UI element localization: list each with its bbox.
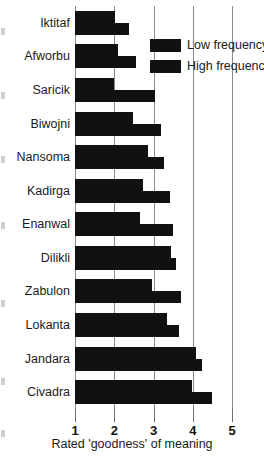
bar-low-frequency (75, 78, 114, 90)
legend-swatch-icon (150, 60, 181, 73)
x-tick-label: 5 (222, 424, 242, 438)
bar-high-frequency (75, 359, 202, 371)
bar-low-frequency (75, 347, 196, 359)
category-label: Enanwal (0, 217, 70, 231)
bar-high-frequency (75, 23, 129, 35)
category-label: Dilikli (0, 251, 70, 265)
category-label: Jandara (0, 352, 70, 366)
bar-low-frequency (75, 44, 118, 56)
axis-tick (154, 409, 155, 422)
bar-group (75, 212, 232, 236)
category-label: Saricik (0, 83, 70, 97)
bar-high-frequency (75, 124, 161, 136)
bar-high-frequency (75, 157, 164, 169)
category-label: Nansoma (0, 150, 70, 164)
bar-group (75, 11, 232, 35)
bar-high-frequency (75, 258, 176, 270)
bar-high-frequency (75, 291, 181, 303)
bar-high-frequency (75, 56, 136, 68)
scan-artifact (1, 300, 5, 307)
bar-group (75, 78, 232, 102)
bar-group (75, 179, 232, 203)
bar-group (75, 145, 232, 169)
bar-low-frequency (75, 112, 133, 124)
bar-high-frequency (75, 90, 155, 102)
category-label: Civadra (0, 385, 70, 399)
x-tick-label: 2 (104, 424, 124, 438)
bar-low-frequency (75, 279, 152, 291)
bar-group (75, 347, 232, 371)
bar-chart: IktitafAfworbuSaricikBiwojniNansomaKadir… (0, 0, 264, 463)
legend-label: High frequency (187, 60, 264, 73)
bar-high-frequency (75, 325, 179, 337)
bar-low-frequency (75, 313, 167, 325)
legend-item-low-frequency: Low frequency (150, 37, 262, 53)
scan-artifact (1, 430, 5, 437)
category-label: Kadirga (0, 184, 70, 198)
bar-group (75, 380, 232, 404)
bar-low-frequency (75, 380, 192, 392)
axis-tick (114, 409, 115, 422)
legend-label: Low frequency (187, 39, 264, 52)
legend-item-high-frequency: High frequency (150, 58, 262, 74)
x-axis-title: Rated 'goodness' of meaning (0, 437, 264, 451)
bar-group (75, 112, 232, 136)
bar-low-frequency (75, 212, 140, 224)
category-label: Afworbu (0, 49, 70, 63)
bar-group (75, 279, 232, 303)
bar-group (75, 246, 232, 270)
bar-high-frequency (75, 224, 173, 236)
x-tick-label: 1 (65, 424, 85, 438)
scan-artifact (1, 378, 5, 385)
axis-tick (232, 409, 233, 422)
axis-tick (193, 409, 194, 422)
bar-low-frequency (75, 11, 115, 23)
bar-high-frequency (75, 392, 212, 404)
legend-swatch-icon (150, 39, 181, 52)
bar-low-frequency (75, 145, 148, 157)
x-tick-label: 4 (183, 424, 203, 438)
category-label: Biwojni (0, 117, 70, 131)
bar-low-frequency (75, 246, 171, 258)
bar-group (75, 313, 232, 337)
legend: Low frequency High frequency (150, 37, 262, 79)
x-tick-label: 3 (144, 424, 164, 438)
bar-low-frequency (75, 179, 143, 191)
axis-tick (75, 409, 76, 422)
bar-high-frequency (75, 191, 170, 203)
category-label: Zabulon (0, 284, 70, 298)
category-label: Lokanta (0, 318, 70, 332)
category-label: Iktitaf (0, 16, 70, 30)
